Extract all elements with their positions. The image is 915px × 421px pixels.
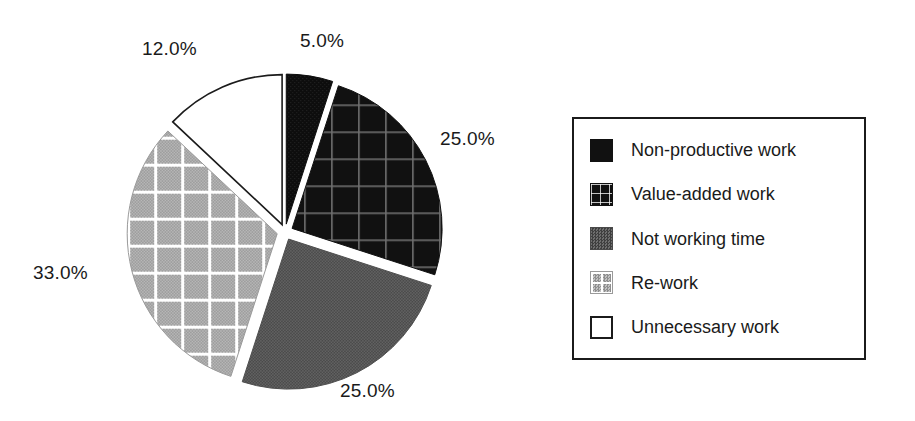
- pie-svg: [0, 0, 560, 421]
- legend-swatch-icon-non-productive-work: [590, 139, 613, 162]
- legend-label-unnecessary-work: Unnecessary work: [631, 318, 779, 336]
- legend-item-unnecessary-work: Unnecessary work: [590, 310, 864, 344]
- slice-label-re-work: 33.0%: [33, 262, 88, 284]
- legend-label-re-work: Re-work: [631, 274, 698, 292]
- slice-label-value-added-work: 25.0%: [440, 128, 495, 150]
- slice-label-unnecessary-work: 12.0%: [142, 38, 197, 60]
- legend-label-not-working-time: Not working time: [631, 230, 765, 248]
- legend-swatch-icon-unnecessary-work: [590, 316, 613, 339]
- pie-plot-area: 5.0% 12.0% 25.0% 33.0% 25.0%: [0, 0, 560, 421]
- legend-swatch-icon-not-working-time: [590, 227, 613, 250]
- slice-label-non-productive-work: 5.0%: [300, 30, 344, 52]
- pie-chart-figure: 5.0% 12.0% 25.0% 33.0% 25.0% Non-product…: [0, 0, 915, 421]
- legend-swatch-icon-value-added-work: [590, 183, 613, 206]
- slice-label-not-working-time: 25.0%: [340, 380, 395, 402]
- legend-item-not-working-time: Not working time: [590, 222, 864, 256]
- legend-item-list: Non-productive work Value-added work Not…: [574, 119, 864, 358]
- chart-legend: Non-productive work Value-added work Not…: [572, 117, 866, 360]
- legend-label-non-productive-work: Non-productive work: [631, 141, 796, 159]
- legend-item-non-productive-work: Non-productive work: [590, 133, 864, 167]
- legend-item-value-added-work: Value-added work: [590, 177, 864, 211]
- legend-item-re-work: Re-work: [590, 266, 864, 300]
- legend-label-value-added-work: Value-added work: [631, 185, 775, 203]
- legend-swatch-icon-re-work: [590, 271, 613, 294]
